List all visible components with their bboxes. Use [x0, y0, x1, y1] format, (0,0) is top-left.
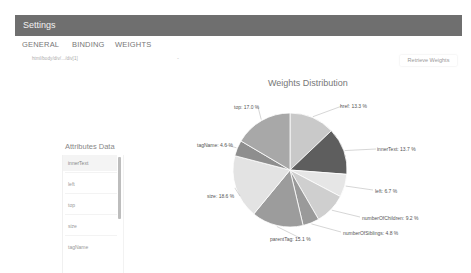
pie-label-href: href: 13.3 % [340, 103, 367, 109]
pie-slice-parenttag[interactable] [254, 170, 303, 227]
list-divider [65, 193, 117, 194]
tab-weights[interactable]: WEIGHTS [115, 40, 151, 49]
pie-leader-line [226, 145, 236, 148]
attribute-item-top[interactable]: top [68, 202, 75, 208]
attribute-item-left[interactable]: left [68, 181, 75, 187]
settings-header: Settings [15, 15, 462, 36]
pie-slice-numberofchildren[interactable] [290, 170, 340, 219]
pie-slice-top[interactable] [241, 113, 290, 170]
pie-slice-tagname[interactable] [235, 141, 290, 170]
pie-slice-size[interactable] [233, 156, 290, 214]
tab-general[interactable]: GENERAL [22, 40, 59, 49]
pie-label-innertext: innerText: 13.7 % [377, 146, 416, 152]
pie-label-left: left: 6.7 % [375, 188, 397, 194]
pie-leader-line [258, 107, 261, 120]
pie-leader-line [311, 224, 341, 232]
pie-slice-numberofsiblings[interactable] [290, 170, 319, 225]
pie-slice-href[interactable] [290, 113, 331, 170]
attributes-list: innerText left top size tagName [62, 155, 125, 273]
pie-label-tagname: tagName: 4.6 % [197, 142, 233, 148]
element-selector-value[interactable]: html/body/div/.../div[1] [32, 56, 78, 61]
pie-label-numberofsiblings: numberOfSiblings: 4.8 % [343, 230, 398, 236]
list-divider [65, 235, 117, 236]
pie-leader-line [332, 210, 360, 217]
attributes-scrollbar[interactable] [118, 157, 121, 219]
attribute-item-innertext[interactable]: innerText [68, 160, 88, 166]
pie-label-numberofchildren: numberOfChildren: 9.2 % [362, 215, 418, 221]
pie-leader-line [313, 106, 342, 117]
pie-label-size: size: 18.6 % [207, 193, 234, 199]
list-divider [65, 172, 117, 173]
pie-slice-left[interactable] [290, 170, 347, 197]
tab-binding[interactable]: BINDING [72, 40, 105, 49]
selector-dropdown-caret-icon[interactable]: - [177, 55, 179, 61]
pie-label-top: top: 17.0 % [234, 104, 259, 110]
pie-leader-line [346, 186, 373, 190]
attribute-item-size[interactable]: size [68, 223, 77, 229]
attributes-data-title: Attributes Data [65, 142, 115, 151]
list-divider [65, 214, 117, 215]
pie-leader-line [277, 226, 300, 238]
pie-slice-innertext[interactable] [290, 131, 347, 175]
attribute-item-tagname[interactable]: tagName [68, 244, 88, 250]
pie-leader-line [345, 149, 376, 151]
header-title: Settings [23, 20, 56, 30]
pie-leader-line [235, 188, 240, 196]
attributes-scroll-track [123, 155, 124, 273]
pie-label-parenttag: parentTag: 15.1 % [270, 236, 311, 242]
retrieve-weights-button[interactable]: Retrieve Weights [400, 55, 457, 66]
chart-title: Weights Distribution [268, 78, 348, 88]
